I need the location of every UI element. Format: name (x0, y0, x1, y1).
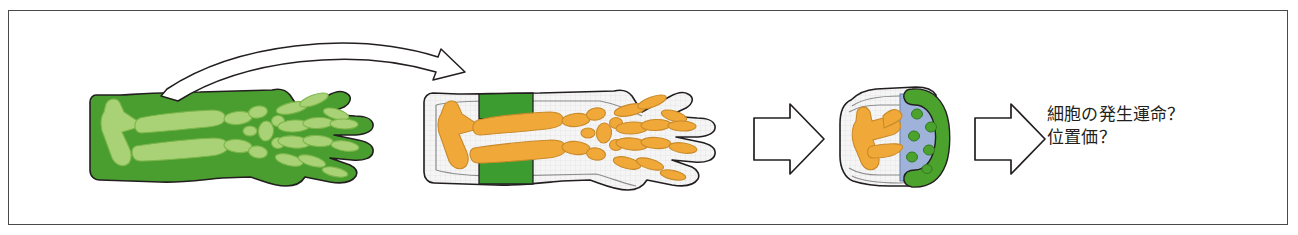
question-caption: 細胞の発生運命？ 位置価？ (1047, 104, 1277, 150)
block-arrow-1 (754, 104, 824, 174)
figure-root: 細胞の発生運命？ 位置価？ (0, 0, 1298, 235)
block-arrow-2 (975, 104, 1045, 174)
caption-line-developmental-fate: 細胞の発生運命？ (1047, 104, 1277, 127)
caption-line-positional-value: 位置価？ (1047, 127, 1277, 150)
panel-host-limb-with-graft (424, 90, 715, 190)
panel-donor-limb-green (90, 89, 373, 186)
panel-limb-bud (840, 87, 950, 187)
